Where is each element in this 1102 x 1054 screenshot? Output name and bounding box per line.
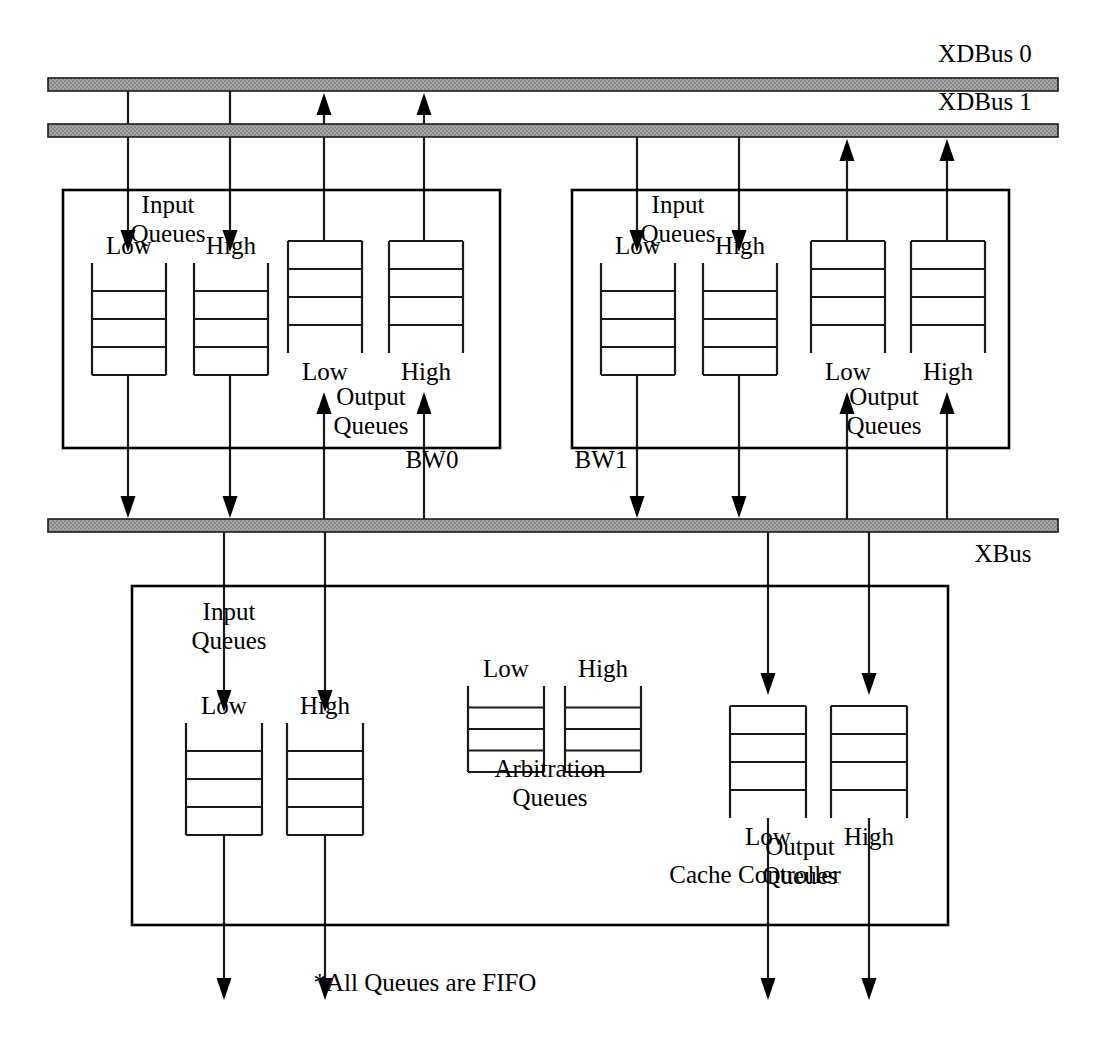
footnote-text: *All Queues are FIFO xyxy=(314,969,537,996)
connector-xdbus0-to-bw0-high xyxy=(223,91,238,252)
queue-label-bw0-in-high: High xyxy=(206,232,257,259)
queue-cc-in-high xyxy=(287,723,363,835)
connector-xbus-to-cc-out-high xyxy=(862,532,877,695)
arrow-head-icon xyxy=(862,673,877,695)
bus-xdbus1 xyxy=(48,124,1058,137)
connector-bw1-in-high-to-xbus xyxy=(732,375,747,518)
bus-bar-xdbus1 xyxy=(48,124,1058,137)
label-layer: XDBus 0XDBus 1XBusBW0InputQueuesOutputQu… xyxy=(106,40,1032,996)
queue-label-bw1-in-low: Low xyxy=(615,232,661,259)
caption-cc-arbitration-caption-line1: Arbitration xyxy=(494,755,606,782)
block-label-bw0: BW0 xyxy=(406,446,459,473)
arrow-head-icon xyxy=(417,93,432,115)
arrow-head-icon xyxy=(761,673,776,695)
arrow-head-icon xyxy=(940,139,955,161)
queue-label-cc-out-low: Low xyxy=(745,823,791,850)
queue-cc-in-low xyxy=(186,723,262,835)
queue-label-bw1-in-high: High xyxy=(715,232,766,259)
connector-xbus-to-bw0-out-low xyxy=(317,392,332,519)
queue-bw1-in-low xyxy=(601,263,675,375)
queue-label-cc-in-high: High xyxy=(300,692,351,719)
caption-bw1-input-caption-line1: Input xyxy=(652,191,705,218)
queue-label-bw0-out-low: Low xyxy=(302,358,348,385)
bus-label-xbus: XBus xyxy=(975,540,1032,567)
diagram-root: XDBus 0XDBus 1XBusBW0InputQueuesOutputQu… xyxy=(0,0,1102,1054)
arrow-head-icon xyxy=(121,496,136,518)
connector-xbus-to-cc-out-low xyxy=(761,532,776,695)
connector-bw0-in-low-to-xbus xyxy=(121,375,136,518)
arrow-head-icon xyxy=(417,392,432,414)
queue-bw0-in-low xyxy=(92,263,166,375)
connector-xbus-to-bw1-out-high xyxy=(940,392,955,519)
queue-bw0-in-high xyxy=(194,263,268,375)
bus-label-xdbus0: XDBus 0 xyxy=(938,40,1032,67)
queue-bw1-out-high xyxy=(911,241,985,353)
arrow-head-icon xyxy=(630,496,645,518)
arrow-head-icon xyxy=(862,978,877,1000)
queue-bw1-out-low xyxy=(811,241,885,353)
connector-bw0-out-high-to-xdbus0 xyxy=(417,93,432,241)
caption-bw0-output-caption-line2: Queues xyxy=(334,412,409,439)
arrow-head-icon xyxy=(317,392,332,414)
arrow-head-icon xyxy=(840,139,855,161)
caption-bw1-output-caption-line2: Queues xyxy=(847,412,922,439)
block-layer xyxy=(63,190,1009,925)
bus-bar-xbus xyxy=(48,519,1058,532)
bus-bar-xdbus0 xyxy=(48,78,1058,91)
queue-bw1-in-high xyxy=(703,263,777,375)
queue-label-cc-in-low: Low xyxy=(201,692,247,719)
arrow-head-icon xyxy=(217,978,232,1000)
arrow-head-icon xyxy=(223,496,238,518)
queue-bw0-out-low xyxy=(288,241,362,353)
caption-bw1-output-caption-line1: Output xyxy=(849,383,919,410)
caption-cc-input-caption-line1: Input xyxy=(203,598,256,625)
queue-cc-out-low xyxy=(730,706,806,818)
queue-label-cc-out-high: High xyxy=(844,823,895,850)
queue-label-cc-arb-high: High xyxy=(578,655,629,682)
arrow-head-icon xyxy=(732,496,747,518)
arrow-head-icon xyxy=(317,93,332,115)
connector-bw0-in-high-to-xbus xyxy=(223,375,238,518)
arrow-head-icon xyxy=(940,392,955,414)
caption-cc-arbitration-caption-line2: Queues xyxy=(513,784,588,811)
queue-label-cc-arb-low: Low xyxy=(483,655,529,682)
queue-label-bw1-out-low: Low xyxy=(825,358,871,385)
queue-cc-out-high xyxy=(831,706,907,818)
architecture-diagram-canvas: XDBus 0XDBus 1XBusBW0InputQueuesOutputQu… xyxy=(0,0,1102,1054)
block-label-bw1: BW1 xyxy=(575,446,628,473)
queue-label-bw0-in-low: Low xyxy=(106,232,152,259)
queue-label-bw0-out-high: High xyxy=(401,358,452,385)
queue-layer xyxy=(92,241,985,835)
connector-bw0-out-low-to-xdbus0 xyxy=(317,93,332,241)
connector-bw1-in-low-to-xbus xyxy=(630,375,645,518)
caption-cc-input-caption-line2: Queues xyxy=(192,627,267,654)
connector-cc-in-low-down xyxy=(217,835,232,1000)
bus-label-xdbus1: XDBus 1 xyxy=(938,88,1032,115)
queue-label-bw1-out-high: High xyxy=(923,358,974,385)
queue-bw0-out-high xyxy=(389,241,463,353)
bus-layer xyxy=(48,78,1058,532)
caption-cc-output-caption-line2: Queues xyxy=(763,862,838,889)
connector-xbus-to-cc-in-high xyxy=(318,532,333,712)
bus-xdbus0 xyxy=(48,78,1058,91)
caption-bw0-input-caption-line1: Input xyxy=(142,191,195,218)
bus-xbus xyxy=(48,519,1058,532)
arrow-head-icon xyxy=(761,978,776,1000)
caption-bw0-output-caption-line1: Output xyxy=(336,383,406,410)
